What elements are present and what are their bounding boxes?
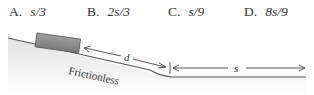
distance-s-arrow xyxy=(173,65,305,71)
distance-d-label: d xyxy=(124,51,130,63)
incline-diagram: d s Frictionless xyxy=(0,0,314,95)
distance-s-label: s xyxy=(234,62,238,74)
